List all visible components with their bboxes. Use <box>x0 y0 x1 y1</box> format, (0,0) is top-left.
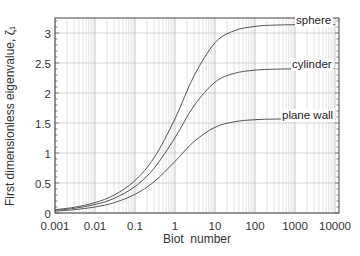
y-tick-labels: 00.511.522.53 <box>35 28 51 220</box>
x-tick-label: 100 <box>245 220 264 232</box>
eigenvalue-chart: 0.0010.010.1110100100010000 00.511.522.5… <box>0 0 360 256</box>
y-tick-label: 2.5 <box>35 58 51 70</box>
x-tick-labels: 0.0010.010.1110100100010000 <box>41 220 351 232</box>
x-tick-label: 1000 <box>282 220 308 232</box>
x-tick-label: 0.01 <box>84 220 106 232</box>
curve-label-sphere: sphere <box>296 14 331 26</box>
y-tick-label: 3 <box>45 28 51 40</box>
curve-label-cylinder: cylinder <box>292 58 332 70</box>
y-tick-label: 1 <box>45 148 51 160</box>
x-tick-label: 10000 <box>319 220 351 232</box>
curve-label-plane-wall: plane wall <box>282 109 333 121</box>
y-axis-label: First dimensionless eigenvalue, ζ₁ <box>3 26 17 206</box>
y-tick-label: 2 <box>45 88 51 100</box>
x-tick-label: 0.1 <box>127 220 143 232</box>
y-tick-label: 1.5 <box>35 118 51 130</box>
y-tick-label: 0.5 <box>35 178 51 190</box>
x-tick-label: 1 <box>172 220 178 232</box>
x-tick-label: 10 <box>209 220 222 232</box>
x-tick-label: 0.001 <box>41 220 70 232</box>
x-axis-label: Biot number <box>163 232 231 246</box>
y-tick-label: 0 <box>45 208 51 220</box>
